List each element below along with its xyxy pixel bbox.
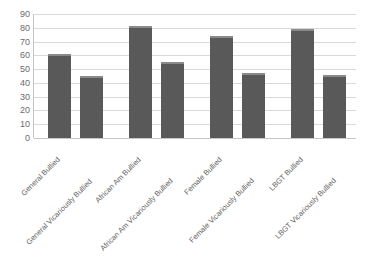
y-axis-tick-label: 60 [0,51,30,60]
y-axis: 9080706050403020100 [0,0,30,150]
bar [242,73,265,138]
bar [210,36,233,138]
bar [48,54,71,138]
x-axis-label: LBGT Bullied [268,156,305,193]
x-axis-label: General Bullied [20,156,62,198]
axis-baseline [34,138,356,139]
y-axis-tick-label: 80 [0,23,30,32]
bar [161,62,184,138]
plot-wrapper: 9080706050403020100 [0,0,368,150]
bar-chart: 9080706050403020100 General BulliedGener… [0,0,368,260]
y-axis-tick-label: 30 [0,92,30,101]
bar [129,26,152,138]
x-axis-label: Female Vicariously Bullied [188,177,256,245]
bar [323,75,346,138]
x-axis-label: LBGT Vicariously Bullied [274,177,338,241]
x-axis-label: Female Bullied [183,156,224,197]
y-axis-tick-label: 50 [0,65,30,74]
y-axis-tick-label: 40 [0,78,30,87]
y-axis-tick-label: 10 [0,120,30,129]
plot-area [34,14,356,138]
x-axis-label: African Am Bullied [94,156,143,205]
bar [291,29,314,138]
y-axis-tick-label: 90 [0,10,30,19]
y-axis-tick-label: 0 [0,134,30,143]
x-axis-labels: General BulliedGeneral Vicariously Bulli… [0,150,368,260]
bar [80,76,103,138]
y-axis-tick-label: 20 [0,106,30,115]
bar-series [34,14,356,138]
y-axis-tick-label: 70 [0,37,30,46]
